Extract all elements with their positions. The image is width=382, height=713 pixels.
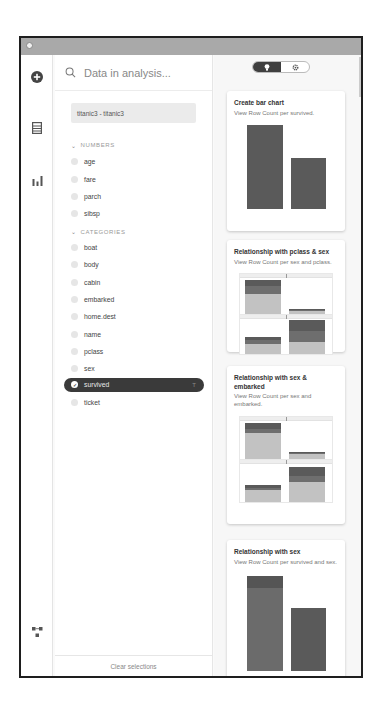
settings-tab[interactable] (281, 62, 309, 72)
suggestion-card-sex-embarked[interactable]: Relationship with sex & embarked View Ro… (227, 366, 345, 524)
field-survived-selected[interactable]: ✓survivedT (64, 378, 204, 392)
search-input[interactable] (84, 67, 204, 79)
field-label: sibsp (84, 210, 100, 217)
facet-top (239, 416, 333, 460)
field-label: parch (84, 193, 101, 200)
card-subtitle: View Row Count per survived. (234, 109, 338, 117)
field-pclass[interactable]: pclass (55, 343, 212, 360)
window-control-icon[interactable] (26, 42, 33, 49)
facet-bottom (239, 315, 333, 355)
card-subtitle: View Row Count per sex and pclass. (234, 258, 338, 266)
chart-icon[interactable] (29, 172, 45, 188)
icon-rail (21, 55, 53, 676)
faceted-chart-preview (239, 416, 333, 503)
field-toggle-icon (71, 176, 78, 183)
field-boat[interactable]: boat (55, 239, 212, 256)
dataset-selector[interactable]: titanic3 - titanic3 (71, 103, 196, 123)
scrollbar[interactable] (359, 57, 361, 97)
field-toggle-icon (71, 399, 78, 406)
field-label: home.dest (84, 313, 116, 320)
lightbulb-icon (264, 64, 270, 71)
bar-chart-preview (234, 125, 338, 209)
field-toggle-icon (71, 296, 78, 303)
section-title: CATEGORIES (81, 229, 126, 235)
section-title: NUMBERS (81, 142, 115, 148)
field-toggle-icon (71, 331, 78, 338)
section-categories[interactable]: ⌄ CATEGORIES (55, 227, 212, 237)
bar-0 (247, 576, 283, 671)
facet-bottom (239, 460, 333, 503)
bar-1 (291, 608, 326, 671)
field-label: survived (84, 381, 109, 388)
field-label: body (84, 261, 99, 268)
field-name[interactable]: name (55, 326, 212, 343)
stacked-bar-preview (234, 576, 338, 671)
field-toggle-icon (71, 365, 78, 372)
field-label: embarked (84, 296, 114, 303)
field-label: age (84, 158, 95, 165)
suggestion-card-pclass-sex[interactable]: Relationship with pclass & sex View Row … (227, 240, 345, 352)
field-toggle-icon (71, 348, 78, 355)
field-age[interactable]: age (55, 153, 212, 170)
chevron-down-icon: ⌄ (71, 142, 77, 149)
field-label: sex (84, 365, 95, 372)
view-toggle[interactable] (252, 61, 310, 73)
card-title: Relationship with pclass & sex (234, 248, 338, 257)
bar-1 (291, 158, 326, 209)
clear-selections-button[interactable]: Clear selections (55, 655, 212, 676)
gear-icon (292, 64, 299, 71)
field-fare[interactable]: fare (55, 170, 212, 187)
suggestions-tab[interactable] (253, 62, 281, 72)
field-cabin[interactable]: cabin (55, 273, 212, 290)
card-subtitle: View Row Count per survived and sex. (234, 558, 338, 566)
field-parch[interactable]: parch (55, 188, 212, 205)
field-toggle-icon (71, 158, 78, 165)
bar-0 (247, 125, 283, 209)
network-icon[interactable] (29, 624, 45, 640)
table-icon[interactable] (29, 120, 45, 136)
suggestion-card-sex[interactable]: Relationship with sex View Row Count per… (227, 540, 345, 678)
field-label: ticket (84, 399, 100, 406)
section-numbers[interactable]: ⌄ NUMBERS (55, 140, 212, 150)
card-title: Relationship with sex (234, 548, 338, 557)
search-bar (55, 55, 212, 91)
field-toggle-icon (71, 261, 78, 268)
field-sex[interactable]: sex (55, 360, 212, 377)
chevron-down-icon: ⌄ (71, 228, 77, 235)
field-label: pclass (84, 348, 103, 355)
field-label: fare (84, 176, 96, 183)
search-icon (65, 67, 76, 78)
field-toggle-icon (71, 210, 78, 217)
field-toggle-icon (71, 313, 78, 320)
add-icon[interactable] (29, 69, 45, 85)
card-subtitle: View Row Count per sex and embarked. (234, 392, 338, 408)
title-bar (21, 38, 361, 55)
facet-top (239, 273, 333, 315)
card-title: Relationship with sex & embarked (234, 374, 338, 391)
field-type-tag: T (192, 382, 196, 388)
faceted-chart-preview (239, 273, 333, 355)
suggestions-panel: Create bar chart View Row Count per surv… (214, 55, 361, 676)
app-window: titanic3 - titanic3 ⌄ NUMBERS age fare p… (19, 36, 363, 678)
card-title: Create bar chart (234, 99, 338, 108)
check-icon: ✓ (71, 381, 78, 388)
field-body[interactable]: body (55, 256, 212, 273)
field-ticket[interactable]: ticket (55, 394, 212, 411)
field-label: boat (84, 244, 97, 251)
field-sibsp[interactable]: sibsp (55, 205, 212, 222)
suggestion-card-bar-chart[interactable]: Create bar chart View Row Count per surv… (227, 91, 345, 231)
field-toggle-icon (71, 279, 78, 286)
field-label: cabin (84, 279, 100, 286)
field-toggle-icon (71, 244, 78, 251)
field-label: name (84, 331, 101, 338)
field-embarked[interactable]: embarked (55, 291, 212, 308)
field-home-dest[interactable]: home.dest (55, 308, 212, 325)
field-toggle-icon (71, 193, 78, 200)
data-panel: titanic3 - titanic3 ⌄ NUMBERS age fare p… (55, 55, 213, 676)
